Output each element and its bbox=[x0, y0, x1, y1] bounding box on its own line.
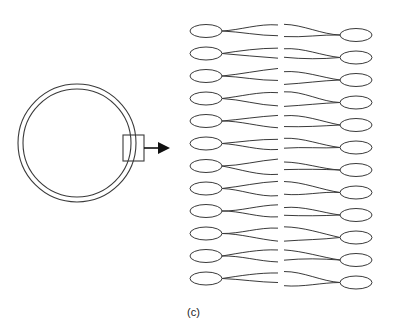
lipid-tail bbox=[222, 121, 278, 128]
lipid-tail bbox=[284, 116, 340, 125]
lipid-tail bbox=[284, 272, 340, 283]
right-lipid-head bbox=[340, 164, 372, 177]
lipid-tail bbox=[284, 125, 340, 127]
left-lipid-head bbox=[190, 272, 222, 285]
lipid-tail bbox=[284, 169, 340, 170]
lipid-tail bbox=[222, 68, 278, 76]
lipid-tail bbox=[222, 159, 278, 166]
lipid-tail bbox=[284, 238, 340, 242]
lipid-tail bbox=[222, 25, 278, 31]
lipid-tail bbox=[222, 166, 278, 175]
lipid-tail bbox=[284, 72, 340, 80]
vesicle-inner-membrane bbox=[23, 89, 131, 197]
right-lipid-head bbox=[340, 119, 372, 132]
lipid-tail bbox=[222, 234, 278, 242]
magnification-box bbox=[123, 135, 144, 161]
lipid-tail bbox=[284, 227, 340, 238]
left-lipid-head bbox=[190, 227, 222, 240]
lipid-tail bbox=[284, 215, 340, 216]
lipid-tail bbox=[284, 259, 340, 260]
lipid-tail bbox=[284, 103, 340, 107]
left-lipid-head bbox=[190, 160, 222, 173]
lipid-tail bbox=[222, 48, 278, 53]
lipid-tail bbox=[284, 162, 340, 170]
lipid-tail bbox=[222, 273, 278, 279]
left-lipid-head bbox=[190, 205, 222, 218]
lipid-tail bbox=[222, 139, 278, 143]
right-lipid-head bbox=[340, 254, 372, 267]
lipid-tail bbox=[222, 115, 278, 121]
vesicle bbox=[18, 84, 144, 202]
lipid-bilayer-diagram bbox=[0, 0, 397, 334]
lipid-tail bbox=[284, 192, 340, 194]
left-lipid-head bbox=[190, 182, 222, 195]
right-lipid-head bbox=[340, 96, 372, 109]
lipid-tail bbox=[284, 138, 340, 147]
lipid-tail bbox=[222, 76, 278, 80]
right-lipid-head bbox=[340, 74, 372, 87]
left-lipid-head bbox=[190, 47, 222, 60]
right-lipid-head bbox=[340, 209, 372, 222]
lipid-tail bbox=[222, 92, 278, 98]
lipid-tail bbox=[284, 207, 340, 215]
lipid-tail bbox=[222, 189, 278, 196]
panel-label: (c) bbox=[187, 306, 200, 318]
lipid-tail bbox=[284, 92, 340, 103]
left-lipid-head bbox=[190, 137, 222, 150]
lipid-tail bbox=[284, 182, 340, 193]
lipid-tail bbox=[222, 256, 278, 262]
right-lipid-head bbox=[340, 51, 372, 64]
lipid-tail bbox=[222, 211, 278, 217]
lipid-tail bbox=[284, 148, 340, 149]
lipid-tail bbox=[222, 99, 278, 106]
vesicle-outer-membrane bbox=[18, 84, 136, 202]
arrow-right-icon bbox=[158, 142, 170, 154]
lipid-tail bbox=[222, 228, 278, 233]
left-lipid-head bbox=[190, 92, 222, 105]
magnify-arrow bbox=[144, 142, 170, 154]
lipid-tail bbox=[284, 283, 340, 287]
right-lipid-head bbox=[340, 231, 372, 244]
right-lipid-head bbox=[340, 276, 372, 289]
lipid-tail bbox=[284, 24, 340, 35]
lipid-tail bbox=[222, 31, 278, 36]
left-lipid-head bbox=[190, 25, 222, 38]
left-lipid-head bbox=[190, 115, 222, 128]
lipid-tail bbox=[284, 35, 340, 37]
lipid-tail bbox=[222, 144, 278, 150]
lipid-tail bbox=[222, 205, 278, 211]
left-lipid-head bbox=[190, 250, 222, 263]
right-lipid-head bbox=[340, 141, 372, 154]
lipid-tail bbox=[284, 80, 340, 84]
right-lipid-head bbox=[340, 29, 372, 42]
left-lipid-head bbox=[190, 70, 222, 83]
right-lipid-head bbox=[340, 186, 372, 199]
lipid-tail bbox=[284, 49, 340, 58]
lipid-tail bbox=[222, 250, 278, 256]
lipid-tail bbox=[222, 54, 278, 59]
lipid-tail bbox=[222, 279, 278, 283]
lipid-tail bbox=[222, 181, 278, 188]
bilayer bbox=[190, 24, 372, 289]
lipid-tail bbox=[284, 57, 340, 58]
